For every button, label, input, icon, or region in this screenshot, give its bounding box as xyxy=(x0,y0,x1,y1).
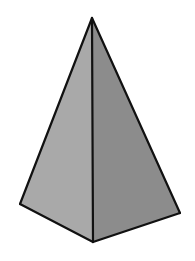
pyramid-right-face xyxy=(92,18,180,242)
pyramid xyxy=(20,18,180,242)
pyramid-front-edge xyxy=(92,18,93,242)
pyramid-diagram xyxy=(0,0,195,261)
pyramid-left-face xyxy=(20,18,93,242)
